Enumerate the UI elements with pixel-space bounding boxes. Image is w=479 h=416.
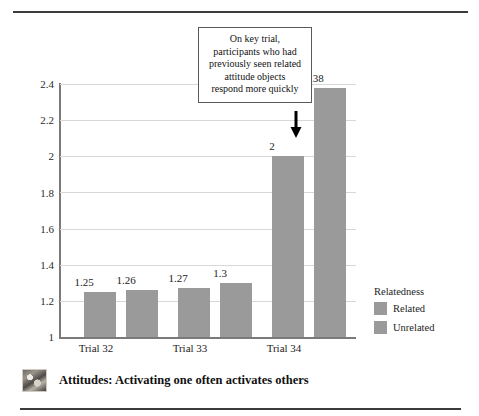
legend-label-related: Related <box>393 303 425 314</box>
bar-trial33-related[interactable] <box>178 288 210 337</box>
bar-trial34-related[interactable] <box>272 156 304 337</box>
gridline-2 <box>60 156 356 157</box>
callout-line-1: On key trial, <box>203 33 307 46</box>
caption-row: Attitudes: Activating one often activate… <box>22 369 309 392</box>
callout-line-2: participants who had <box>203 46 307 59</box>
bottom-divider-rule <box>20 408 461 410</box>
bar-label-trial34-related: 2 <box>252 140 292 152</box>
legend-label-unrelated: Unrelated <box>393 322 434 333</box>
callout-line-4: attitude objects <box>203 71 307 84</box>
y-tick-2.2: 2.2 <box>10 114 54 126</box>
y-tick-2.4: 2.4 <box>10 78 54 90</box>
figure-panel: Latency of Responding (Inverse of Speed)… <box>0 0 479 416</box>
legend-item-unrelated[interactable]: Unrelated <box>374 321 474 334</box>
x-tick-trial-32: Trial 32 <box>51 342 141 354</box>
bar-label-trial32-related: 1.25 <box>64 276 104 288</box>
legend-title: Relatedness <box>374 286 474 297</box>
y-tick-1.4: 1.4 <box>10 259 54 271</box>
legend-swatch-related <box>374 302 387 315</box>
x-tick-trial-34: Trial 34 <box>239 342 329 354</box>
y-tick-1: 1 <box>10 331 54 343</box>
caption-title: Attitudes: Activating one often activate… <box>59 373 309 388</box>
bar-label-trial33-unrelated: 1.3 <box>200 267 240 279</box>
legend-item-related[interactable]: Related <box>374 302 474 315</box>
gridline-1.6 <box>60 229 356 230</box>
bar-trial33-unrelated[interactable] <box>220 283 252 337</box>
gridline-1.4 <box>60 265 356 266</box>
bar-label-trial33-related: 1.27 <box>158 272 198 284</box>
gridline-2.2 <box>60 120 356 121</box>
bar-trial32-unrelated[interactable] <box>126 290 158 337</box>
y-tick-2: 2 <box>10 150 54 162</box>
plot-area <box>60 84 356 337</box>
annotation-callout: On key trial, participants who had previ… <box>198 27 312 103</box>
x-axis-line <box>59 337 356 339</box>
callout-line-5: respond more quickly <box>203 83 307 96</box>
callout-line-3: previously seen related <box>203 58 307 71</box>
y-tick-1.2: 1.2 <box>10 295 54 307</box>
bar-label-trial32-unrelated: 1.26 <box>106 274 146 286</box>
y-tick-1.8: 1.8 <box>10 187 54 199</box>
bar-trial32-related[interactable] <box>84 292 116 337</box>
y-tick-1.6: 1.6 <box>10 223 54 235</box>
caption-thumbnail-image <box>22 369 47 392</box>
legend-swatch-unrelated <box>374 321 387 334</box>
down-arrow-icon <box>289 111 303 139</box>
gridline-1.8 <box>60 192 356 193</box>
x-tick-trial-33: Trial 33 <box>145 342 235 354</box>
legend: Relatedness Related Unrelated <box>374 286 474 340</box>
top-divider-rule <box>13 11 468 13</box>
bar-trial34-unrelated[interactable] <box>314 88 346 337</box>
